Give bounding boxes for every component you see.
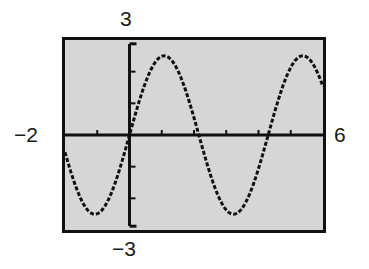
calculator-graph-figure: 3 −2 6 −3 [0, 0, 369, 269]
plot-area [65, 40, 323, 230]
calculator-screen [62, 37, 326, 233]
axes-group [65, 44, 323, 226]
x-tick-marks [97, 130, 291, 134]
x-min-label: −2 [14, 124, 38, 145]
x-max-label: 6 [334, 124, 346, 145]
y-max-label: 3 [62, 8, 326, 29]
y-min-label: −3 [62, 238, 326, 259]
